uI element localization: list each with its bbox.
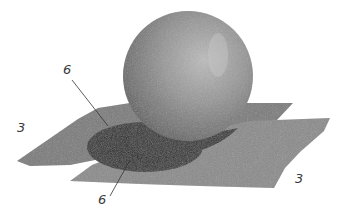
sphere [123,11,253,141]
label-top-left-6: 6 [63,63,71,76]
sphere-diagram [0,0,342,212]
label-right-3: 3 [295,172,303,185]
label-bottom-6: 6 [98,193,106,206]
sphere-highlight [208,33,228,77]
label-left-3: 3 [17,121,25,134]
